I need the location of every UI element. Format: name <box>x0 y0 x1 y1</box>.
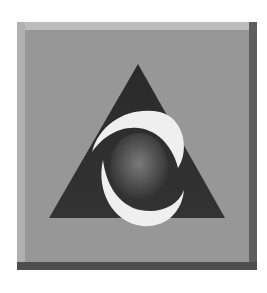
sphere-shape <box>110 133 168 201</box>
aol-logo-icon <box>0 0 267 293</box>
